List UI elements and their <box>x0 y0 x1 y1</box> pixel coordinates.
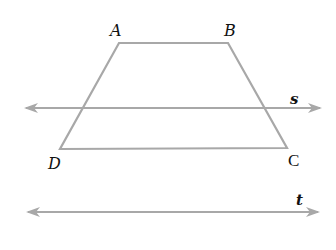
vertex-label-d: D <box>48 156 61 172</box>
vertex-label-a: A <box>110 23 122 39</box>
vertex-label-b: B <box>224 23 236 39</box>
vertex-label-c: C <box>288 152 299 169</box>
line-label-t: t <box>296 193 303 208</box>
geometry-diagram <box>0 0 336 250</box>
trapezoid-abcd <box>60 43 287 149</box>
line-label-s: s <box>290 92 298 107</box>
